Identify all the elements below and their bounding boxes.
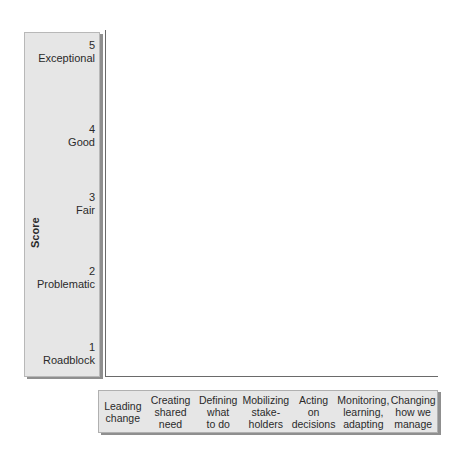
x-category: Changing how we manage [389, 391, 437, 432]
plot-area [105, 30, 438, 377]
y-axis-title: Score [29, 213, 45, 253]
x-category: Defining what to do [194, 391, 242, 432]
y-axis-panel: Score 5 Exceptional 4 Good 3 Fair 2 Prob… [24, 32, 100, 377]
y-tick-number: 2 [37, 265, 95, 278]
y-tick-label: Good [68, 136, 95, 149]
y-tick-1: 1 Roadblock [43, 341, 95, 367]
x-category: Mobilizing stake- holders [242, 391, 290, 432]
y-tick-label: Problematic [37, 278, 95, 291]
x-category: Acting on decisions [290, 391, 338, 432]
x-category: Leading change [99, 391, 147, 432]
y-tick-number: 3 [76, 191, 95, 204]
y-tick-label: Roadblock [43, 354, 95, 367]
y-tick-label: Fair [76, 204, 95, 217]
x-category: Creating shared need [147, 391, 195, 432]
x-category: Monitoring, learning, adapting [337, 391, 389, 432]
y-tick-number: 5 [38, 39, 95, 52]
y-tick-4: 4 Good [68, 123, 95, 149]
x-axis-panel: Leading change Creating shared need Defi… [98, 390, 438, 433]
y-tick-2: 2 Problematic [37, 265, 95, 291]
y-tick-number: 4 [68, 123, 95, 136]
y-tick-label: Exceptional [38, 52, 95, 65]
y-tick-3: 3 Fair [76, 191, 95, 217]
y-tick-5: 5 Exceptional [38, 39, 95, 65]
y-tick-number: 1 [43, 341, 95, 354]
